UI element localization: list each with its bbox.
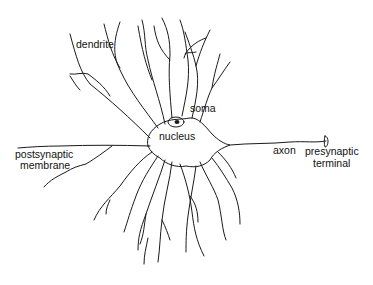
label-nucleus: nucleus [159,130,195,142]
label-presynaptic-line1: presynaptic [305,145,359,157]
upper-dendrites [70,18,230,138]
label-dendrite: dendrite [76,38,114,50]
lower-dendrites [94,152,240,264]
label-soma: soma [190,102,216,114]
nucleolus [175,120,180,124]
label-presynaptic-line2: terminal [313,157,350,169]
label-postsynaptic-line2: membrane [20,159,70,171]
soma-body [148,118,231,167]
neuron-diagram: dendrite soma nucleus axon presynaptic t… [0,0,373,285]
label-axon: axon [273,144,296,156]
